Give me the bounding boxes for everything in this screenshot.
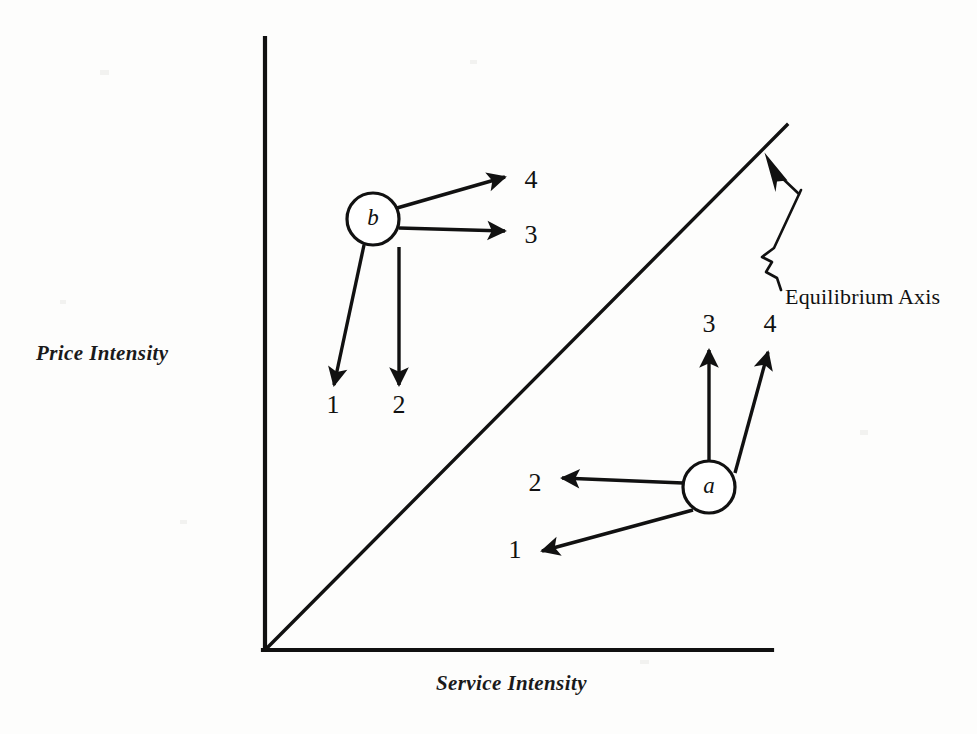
node-a-arrow-4 xyxy=(735,352,768,473)
node-b-group: b 4 3 1 2 xyxy=(327,165,538,419)
node-a-group: a 3 4 2 1 xyxy=(509,309,777,564)
equilibrium-axis-pointer xyxy=(762,153,801,291)
node-b-arrow-1-label: 1 xyxy=(327,390,340,419)
node-b-label: b xyxy=(367,205,379,230)
node-a-arrow-2-label: 2 xyxy=(529,468,542,497)
x-axis-label: Service Intensity xyxy=(436,671,587,695)
node-a-label: a xyxy=(703,473,715,498)
node-b-arrow-4-label: 4 xyxy=(525,165,538,194)
node-a-arrow-2 xyxy=(562,478,683,483)
strategy-positioning-diagram: b 4 3 1 2 a 3 xyxy=(0,0,977,734)
equilibrium-axis-annotation-label: Equilibrium Axis xyxy=(785,284,940,309)
node-b-arrow-1 xyxy=(334,245,364,385)
figure-canvas: b 4 3 1 2 a 3 xyxy=(0,0,977,734)
y-axis-label: Price Intensity xyxy=(35,341,169,365)
scan-noise xyxy=(60,60,868,664)
node-b-arrow-4 xyxy=(397,177,505,208)
node-a-arrow-1 xyxy=(542,510,693,551)
node-a-arrow-1-label: 1 xyxy=(509,535,522,564)
node-b-arrow-3 xyxy=(399,228,505,231)
node-a-arrow-3-label: 3 xyxy=(703,309,716,338)
node-b-arrow-2-label: 2 xyxy=(393,390,406,419)
node-a-arrow-4-label: 4 xyxy=(764,309,777,338)
node-b-arrow-3-label: 3 xyxy=(525,220,538,249)
